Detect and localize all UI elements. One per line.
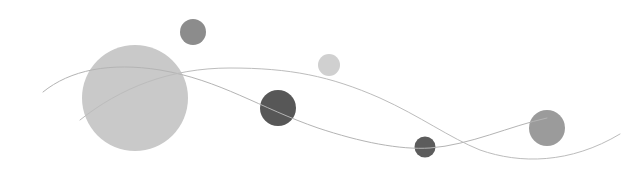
small-dark-circle — [415, 137, 436, 158]
small-light-circle — [318, 54, 340, 76]
large-light-circle — [82, 45, 188, 151]
top-medium-circle — [180, 19, 206, 45]
dark-circle — [260, 90, 296, 126]
decorative-orbit-illustration — [0, 0, 636, 189]
right-gray-circle — [529, 110, 565, 146]
orbit-graphic — [0, 0, 636, 189]
